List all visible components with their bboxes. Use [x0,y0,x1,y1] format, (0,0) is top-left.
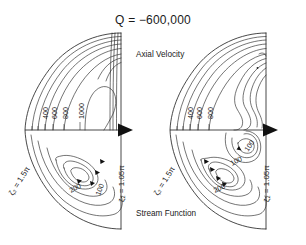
left-av-contour-800 [64,54,121,130]
right-av-label-600: 600 [195,107,204,119]
right-panel-axis-label-inner: ζ₂ = 1.05π [262,165,271,202]
left-av-label-1000: 1000 [77,103,86,119]
left-av-contour-1000 [85,87,116,130]
right-sf-flow-arrow-1 [204,159,209,164]
left-av-contour-steep-b [113,33,115,130]
figure-title: Q = −600,000 [115,13,191,27]
left-sf-contour-1 [38,141,115,205]
figure-svg: Q = −600,000 Axial Velocity Stream Funct… [0,0,306,245]
right-sf-flow-arrow-3 [216,176,221,181]
left-av-contour-steep-a [110,33,112,130]
stream-function-label: Stream Function [136,209,197,218]
right-sf-label-100-upper: 100 [242,138,256,153]
contour-figure-container: Q = −600,000 Axial Velocity Stream Funct… [0,0,306,245]
left-panel: 400 600 800 1000 200 100 ζ₂ = 1.5π ζ₂ = … [7,33,133,229]
left-sf-contour-core [71,168,89,182]
right-av-label-800: 800 [206,107,215,119]
left-av-label-800: 800 [61,107,70,119]
left-panel-outer-boundary [25,33,121,229]
right-av-contour-800 [209,54,266,130]
right-av-contour-inner-b [243,63,266,130]
right-panel-axis-label-outer: ζ₂ = 1.5π [152,164,177,197]
left-sf-label-200: 200 [68,181,83,195]
left-sf-flow-arrow-1 [100,159,105,164]
right-sf-flow-arrow-2 [210,167,215,172]
right-sf-contour-core [216,169,234,183]
left-av-contour-steep-c [117,33,119,130]
left-av-label-600: 600 [50,107,59,119]
right-av-contour-inner-c [250,68,266,127]
left-sf-flow-arrow-2 [95,170,100,175]
left-sf-label-100: 100 [93,182,106,196]
left-panel-axis-arrow-icon [118,124,133,137]
left-sf-contour-outer [31,135,122,216]
right-av-extremum-dot [257,67,259,69]
left-panel-axis-label-inner: ζ₂ = 1.05π [117,165,126,202]
right-panel: 400 600 800 100 100 200 ζ₂ = 1.5π ζ₂ = 1… [152,33,278,229]
right-av-contour-inner-d [256,75,266,128]
axial-velocity-label: Axial Velocity [136,50,185,59]
right-panel-axis-arrow-icon [263,124,278,137]
left-panel-axis-label-outer: ζ₂ = 1.5π [7,164,32,197]
left-av-contour-inner-a [98,58,121,79]
right-sf-upper-flow-arrow [237,146,242,151]
right-panel-outer-boundary [170,33,266,229]
